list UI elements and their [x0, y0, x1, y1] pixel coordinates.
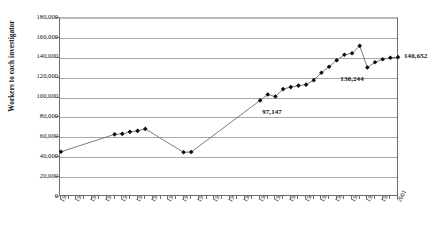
y-tick-label: 60,000 [10, 133, 58, 140]
data-series [60, 18, 399, 197]
y-axis-title: Workers to each investigator [8, 2, 16, 130]
label-97147: 97,147 [262, 108, 282, 116]
data-point-marker [380, 57, 385, 62]
plot-area [59, 17, 398, 196]
data-point-marker [181, 150, 186, 155]
y-tick-label: 100,000 [10, 93, 58, 100]
data-point-marker [143, 127, 148, 132]
data-point-marker [135, 129, 140, 134]
y-tick-label: 160,000 [10, 34, 58, 41]
data-point-marker [304, 82, 309, 87]
label-140652: 140,652 [404, 52, 427, 60]
data-point-marker [128, 130, 133, 135]
y-tick-label: 180,000 [10, 14, 58, 21]
series-line [61, 46, 398, 152]
data-point-marker [59, 149, 64, 154]
y-tick-label: 120,000 [10, 73, 58, 80]
y-tick-label: 80,000 [10, 113, 58, 120]
y-tick-label: 40,000 [10, 153, 58, 160]
data-point-marker [112, 132, 117, 137]
y-tick-label: 140,000 [10, 53, 58, 60]
y-tick-label: 0 [10, 193, 58, 200]
data-point-marker [296, 83, 301, 88]
chart-container: Workers to each investigator 180,000160,… [0, 0, 442, 236]
data-point-marker [396, 55, 401, 60]
label-130244: 130,244 [340, 75, 363, 83]
data-point-marker [120, 132, 125, 137]
data-point-marker [288, 85, 293, 90]
y-tick-label: 20,000 [10, 173, 58, 180]
data-point-marker [388, 55, 393, 60]
